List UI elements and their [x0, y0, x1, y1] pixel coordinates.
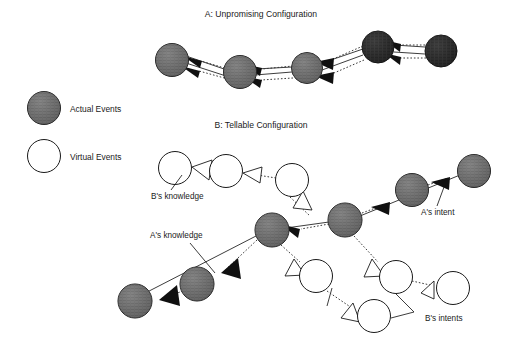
label-as-intent: A's intent — [421, 208, 455, 217]
actual-event-node — [458, 155, 491, 188]
legend-actual-label: Actual Events — [70, 104, 121, 114]
legend-virtual-swatch — [28, 140, 61, 173]
virtual-event-node — [159, 152, 192, 185]
actual-event-node-dark — [362, 31, 394, 63]
actual-event-node-dark — [425, 35, 457, 67]
actual-event-node — [396, 174, 429, 207]
legend-virtual-label: Virtual Events — [70, 152, 122, 162]
section-a-title: A: Unpromising Configuration — [205, 9, 317, 19]
actual-event-node — [292, 53, 323, 84]
virtual-event-node — [300, 260, 333, 293]
actual-event-node — [118, 284, 152, 318]
virtual-event-node — [380, 261, 413, 294]
section-b-title: B: Tellable Configuration — [215, 120, 308, 130]
virtual-event-node — [210, 155, 243, 188]
diagram-svg: A: Unpromising Configuration — [0, 0, 522, 359]
actual-event-node — [328, 203, 362, 237]
label-bs-intents: B's intents — [425, 314, 463, 323]
label-bs-knowledge: B's knowledge — [151, 192, 204, 201]
virtual-event-node — [358, 300, 391, 333]
actual-event-node — [156, 44, 189, 77]
actual-event-node — [224, 56, 257, 89]
virtual-event-node — [437, 272, 470, 305]
actual-event-node — [255, 213, 289, 247]
legend-actual-swatch — [28, 92, 61, 125]
label-as-knowledge: A's knowledge — [150, 231, 203, 240]
figure-canvas: A: Unpromising Configuration — [0, 0, 522, 359]
actual-event-node — [180, 267, 214, 301]
virtual-event-node — [276, 164, 309, 197]
